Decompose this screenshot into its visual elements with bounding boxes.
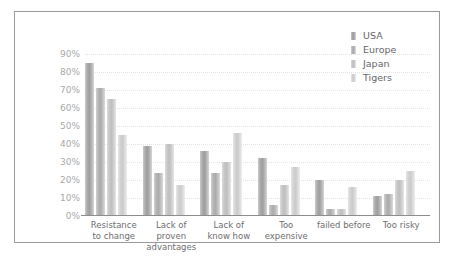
bar[interactable] [96,88,105,216]
chart-page: 90%80%70%60%50%40%30%20%10%0% Resistance… [0,0,455,256]
bar[interactable] [384,194,393,216]
legend-item-label: Japan [363,59,390,69]
legend-item[interactable]: Japan [351,57,396,70]
bar[interactable] [373,196,382,216]
bar[interactable] [107,99,116,216]
x-axis-category-label: Lack of proven advantages [143,220,201,253]
y-axis-tick-label: 80% [60,68,80,77]
bar[interactable] [176,185,185,216]
bar[interactable] [118,135,127,216]
bar[interactable] [211,173,220,216]
x-axis-category-labels: Resistance to changeLack of proven advan… [85,220,430,253]
legend-item-label: Tigers [363,73,392,83]
bar[interactable] [291,167,300,216]
bar[interactable] [395,180,404,216]
legend-item[interactable]: USA [351,29,396,42]
x-axis-category-label: Resistance to change [85,220,143,253]
legend-item-label: USA [363,31,383,41]
bar[interactable] [315,180,324,216]
legend-item[interactable]: Tigers [351,71,396,84]
bar[interactable] [85,63,94,216]
legend-item-label: Europe [363,45,396,55]
bar[interactable] [143,146,152,216]
y-axis-tick-labels: 90%80%70%60%50%40%30%20%10%0% [15,12,85,242]
y-axis-tick-label: 60% [60,104,80,113]
bar[interactable] [200,151,209,216]
y-axis-tick-label: 90% [60,50,80,59]
bar[interactable] [406,171,415,216]
bar-group [143,54,201,216]
bar-group [85,54,143,216]
bar[interactable] [154,173,163,216]
bar[interactable] [222,162,231,216]
y-axis-tick-label: 50% [60,122,80,131]
y-axis-tick-label: 70% [60,86,80,95]
legend-swatch-icon [351,46,356,54]
y-axis-tick-label: 20% [60,176,80,185]
y-axis-tick-label: 0% [66,212,80,221]
y-axis-tick-label: 30% [60,158,80,167]
legend-item[interactable]: Europe [351,43,396,56]
bar[interactable] [165,144,174,216]
y-axis-tick-label: 10% [60,194,80,203]
x-axis-category-label: Lack of know how [200,220,258,253]
x-axis-category-label: failed before [315,220,373,253]
legend-swatch-icon [351,32,356,40]
bar-group [258,54,316,216]
legend-swatch-icon [351,74,356,82]
bar-group [200,54,258,216]
bar[interactable] [258,158,267,216]
x-axis-category-label: Too risky [373,220,431,253]
legend-swatch-icon [351,60,356,68]
y-axis-tick-label: 40% [60,140,80,149]
chart-legend: USAEuropeJapanTigers [351,29,396,85]
bar[interactable] [348,187,357,216]
chart-frame: 90%80%70%60%50%40%30%20%10%0% Resistance… [14,11,440,243]
bar[interactable] [280,185,289,216]
x-axis-line [81,215,430,216]
bar[interactable] [233,133,242,216]
x-axis-category-label: Too expensive [258,220,316,253]
